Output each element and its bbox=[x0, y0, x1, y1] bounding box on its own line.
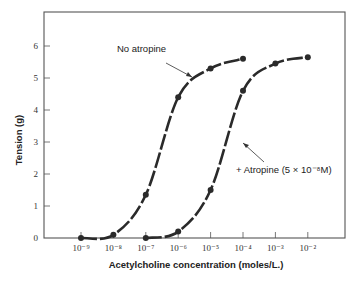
data-point bbox=[143, 235, 149, 241]
y-tick-label: 3 bbox=[34, 137, 39, 147]
x-axis-title: Acetylcholine concentration (moles/L.) bbox=[109, 259, 284, 270]
data-point bbox=[208, 187, 214, 193]
data-point bbox=[110, 232, 116, 238]
data-point bbox=[78, 235, 84, 241]
data-point bbox=[272, 61, 278, 67]
data-point bbox=[143, 192, 149, 198]
y-axis-title: Tension (g) bbox=[13, 115, 24, 165]
x-tick-label: 10⁻⁸ bbox=[105, 243, 122, 253]
curve-line bbox=[146, 57, 308, 238]
series-atropine bbox=[143, 54, 311, 241]
annotation-atropine: + Atropine (5 × 10⁻⁸M) bbox=[236, 164, 332, 175]
x-tick-label: 10⁻³ bbox=[267, 243, 284, 253]
arrowhead-no-atropine-icon bbox=[186, 72, 192, 77]
data-point bbox=[305, 54, 311, 60]
annotation-no-atropine: No atropine bbox=[117, 43, 166, 54]
y-tick-label: 0 bbox=[34, 233, 39, 243]
y-axis-ticks: 0123456 bbox=[34, 41, 51, 243]
data-point bbox=[240, 56, 246, 62]
y-tick-label: 4 bbox=[34, 105, 39, 115]
series-group bbox=[78, 54, 311, 241]
y-tick-label: 2 bbox=[34, 169, 39, 179]
x-tick-label: 10⁻² bbox=[299, 243, 316, 253]
x-tick-label: 10⁻⁹ bbox=[72, 243, 89, 253]
x-tick-label: 10⁻⁷ bbox=[137, 243, 154, 253]
curve-line bbox=[81, 59, 243, 239]
data-point bbox=[175, 229, 181, 235]
series-no-atropine bbox=[78, 56, 246, 241]
data-point bbox=[240, 88, 246, 94]
x-axis-ticks: 10⁻⁹10⁻⁸10⁻⁷10⁻⁶10⁻⁵10⁻⁴10⁻³10⁻² bbox=[72, 232, 316, 253]
dose-response-chart: 0123456 10⁻⁹10⁻⁸10⁻⁷10⁻⁶10⁻⁵10⁻⁴10⁻³10⁻²… bbox=[0, 0, 361, 281]
plot-frame bbox=[44, 12, 345, 238]
plot-border bbox=[44, 12, 345, 238]
data-point bbox=[175, 94, 181, 100]
y-tick-label: 5 bbox=[34, 73, 39, 83]
x-tick-label: 10⁻⁴ bbox=[234, 243, 251, 253]
data-point bbox=[208, 65, 214, 71]
x-tick-label: 10⁻⁵ bbox=[202, 243, 219, 253]
y-tick-label: 6 bbox=[34, 41, 39, 51]
x-tick-label: 10⁻⁶ bbox=[170, 243, 187, 253]
y-tick-label: 1 bbox=[34, 201, 39, 211]
